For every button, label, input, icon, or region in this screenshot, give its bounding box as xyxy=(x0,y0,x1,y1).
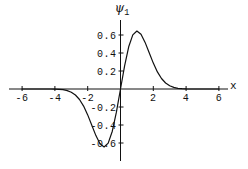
y-tick-label: 0.6 xyxy=(97,31,117,42)
psi-subscript: 1 xyxy=(124,8,129,18)
y-tick-label: -0.6 xyxy=(90,139,116,150)
y-tick-label: -0.2 xyxy=(90,103,116,114)
y-tick-label: 0.4 xyxy=(97,49,117,60)
x-tick-label: 4 xyxy=(183,93,190,104)
x-tick-label: -6 xyxy=(16,93,29,104)
x-axis-label: x xyxy=(230,80,237,92)
psi-symbol: ψ xyxy=(115,1,124,15)
x-tick-label: 2 xyxy=(150,93,157,104)
plot-svg: -6-4-22460.60.40.2-0.2-0.4-0.6 xyxy=(0,0,248,169)
x-tick-label: -4 xyxy=(48,93,61,104)
plot-title: ψ1 xyxy=(108,1,136,20)
wavefunction-figure: ψ1 x -6-4-22460.60.40.2-0.2-0.4-0.6 xyxy=(0,0,248,169)
y-tick-label: 0.2 xyxy=(97,67,117,78)
x-tick-label: 6 xyxy=(216,93,223,104)
